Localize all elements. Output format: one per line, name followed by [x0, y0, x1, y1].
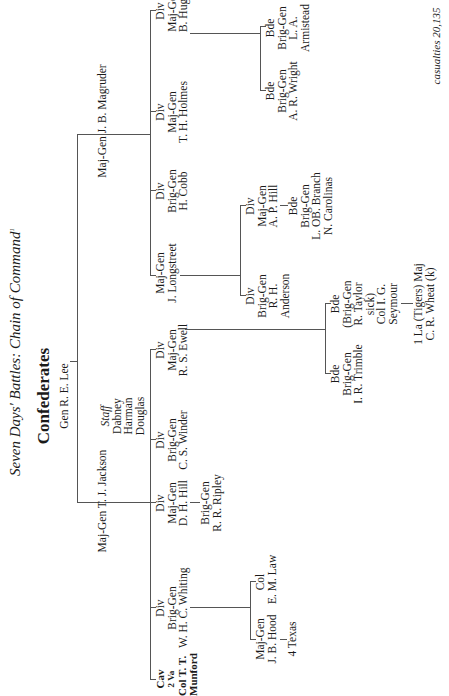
- jackson-label: Maj-Gen T. J. Jackson: [96, 436, 108, 566]
- connector: [70, 361, 77, 362]
- staff-list: Staff Dabney Harman Douglas: [100, 386, 146, 446]
- connector: [180, 275, 240, 276]
- unit-bde-armistead: Bde Brig-Gen L. A. Armistead: [265, 0, 311, 56]
- connector: [260, 27, 261, 91]
- unit-bde-wright: Bde Brig-Gen A. R. Wright: [265, 56, 300, 126]
- connector: [150, 10, 151, 276]
- casualties-note: casualties 20,135: [430, 0, 442, 106]
- unit-longstreet: Maj-Gen J. Longstreet: [155, 238, 178, 308]
- connector: [185, 329, 325, 330]
- chain-of-command-page: Seven Days' Battles: Chain of Command1 C…: [0, 0, 449, 696]
- unit-law: Col E. M. Law: [255, 560, 278, 604]
- commander-lee: Gen R. E. Lee: [58, 346, 70, 446]
- connector: [250, 582, 251, 640]
- unit-ripley: Brig-Gen R. R. Ripley: [200, 468, 223, 538]
- connector: [77, 135, 78, 503]
- unit-cav-munford: Cav 2 Va Col T. T. Munford: [155, 662, 199, 696]
- connector: [240, 206, 241, 296]
- unit-4-texas: 4 Texas: [286, 612, 298, 666]
- unit-div-cobb: Div Brig-Gen H. Cobb: [155, 161, 190, 221]
- connector: [190, 33, 260, 34]
- unit-bde-branch: Bde Brig-Gen L. OB. Branch N. Carolinas: [288, 166, 334, 246]
- unit-div-winder: Div Brig-Gen C. S. Winder: [155, 405, 190, 475]
- unit-bde-taylor-seymour: Bde (Brig-Gen R. Taylor sick) Col I. G. …: [330, 272, 399, 336]
- unit-div-holmes: Div Maj-Gen T. H. Holmes: [155, 77, 190, 147]
- unit-div-whiting: Div Brig-Gen W. H. C. Whiting: [155, 568, 190, 648]
- unit-div-ewell: Div Maj-Gen R. S. Ewell: [155, 315, 190, 385]
- heading: Confederates: [38, 326, 50, 466]
- unit-bde-trimble: Bde Brig-Gen I. R. Trimble: [330, 338, 365, 410]
- connector: [77, 502, 150, 503]
- page-title: Seven Days' Battles: Chain of Command1: [6, 222, 21, 482]
- unit-div-anderson: Div Brig-Gen R. H. Anderson: [245, 270, 291, 322]
- connector: [190, 607, 250, 608]
- magruder-label: Maj-Gen J. B. Magruder: [96, 46, 108, 196]
- connector: [77, 134, 150, 135]
- unit-hood: Maj-Gen J. B. Hood: [255, 612, 278, 666]
- unit-div-huger: Div Maj-Gen B. Huger: [155, 0, 190, 42]
- unit-tigers-wheat: 1 La (Tigers) Maj C. R. Wheat (k): [413, 258, 436, 350]
- unit-div-ap-hill: Div Maj-Gen A. P. Hill: [245, 176, 280, 236]
- unit-div-dh-hill: Div Maj-Gen D. H. Hill: [155, 473, 190, 533]
- connector: [150, 350, 151, 680]
- connector: [325, 304, 326, 374]
